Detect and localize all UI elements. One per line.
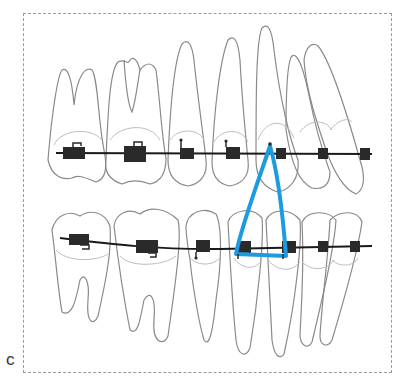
upper-lateral-incisor (286, 55, 330, 188)
upper-premolar-2 (212, 38, 248, 186)
lower-premolar-2 (228, 211, 262, 354)
bracket (136, 240, 158, 253)
lower-lateral-incisor (300, 213, 336, 346)
bracket (124, 146, 146, 162)
lower-premolar-1 (186, 210, 221, 342)
lower-molar-1 (52, 212, 110, 321)
bracket (226, 147, 240, 159)
bracket (360, 148, 370, 160)
bracket (318, 241, 328, 252)
bracket (180, 148, 194, 159)
bracket (69, 234, 89, 245)
bracket (196, 240, 210, 252)
upper-premolar-1 (168, 42, 206, 186)
bracket (63, 147, 85, 159)
upper-molar-2-root (124, 60, 140, 112)
panel-label: c (6, 350, 15, 370)
upper-central-incisor (304, 45, 363, 194)
lower-molar-2 (114, 209, 179, 341)
lower-teeth (52, 209, 362, 356)
dental-diagram (0, 0, 399, 386)
upper-molar-2 (106, 58, 166, 184)
bracket (350, 241, 360, 252)
lower-gum-lines (56, 250, 358, 269)
upper-molar-1 (48, 69, 106, 182)
upper-teeth (48, 26, 363, 194)
bracket (276, 148, 286, 159)
bracket (318, 148, 328, 159)
